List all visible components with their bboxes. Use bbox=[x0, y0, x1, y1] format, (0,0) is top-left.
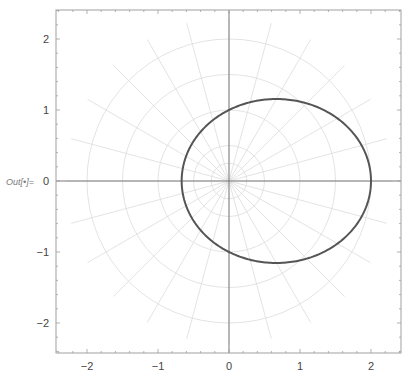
y-tick-label: 1 bbox=[43, 104, 49, 116]
grid-ray bbox=[229, 181, 344, 296]
grid-ray bbox=[147, 40, 229, 181]
grid-ray bbox=[114, 66, 229, 181]
grid-ray bbox=[88, 99, 229, 181]
grid-ray bbox=[187, 181, 229, 339]
grid-ray bbox=[147, 181, 229, 322]
grid-ray bbox=[229, 181, 370, 263]
grid-ray bbox=[114, 181, 229, 296]
grid-ray bbox=[229, 181, 311, 322]
x-tick-label: −2 bbox=[81, 360, 94, 372]
y-tick-label: −2 bbox=[36, 317, 49, 329]
y-tick-label: 0 bbox=[43, 175, 49, 187]
grid-ray bbox=[229, 99, 370, 181]
grid-ray bbox=[187, 23, 229, 181]
x-tick-label: 1 bbox=[297, 360, 303, 372]
grid-ray bbox=[229, 181, 387, 223]
x-tick-label: 2 bbox=[368, 360, 374, 372]
polar-plot: −2−1012210−1−2 bbox=[0, 0, 414, 383]
y-tick-label: 2 bbox=[43, 33, 49, 45]
grid-ray bbox=[229, 66, 344, 181]
grid-ray bbox=[88, 181, 229, 263]
x-tick-label: −1 bbox=[152, 360, 165, 372]
grid-ray bbox=[71, 139, 229, 181]
grid-ray bbox=[229, 40, 311, 181]
x-tick-label: 0 bbox=[226, 360, 232, 372]
axes bbox=[56, 10, 401, 353]
grid-ray bbox=[229, 139, 387, 181]
y-tick-label: −1 bbox=[36, 246, 49, 258]
grid-ray bbox=[71, 181, 229, 223]
